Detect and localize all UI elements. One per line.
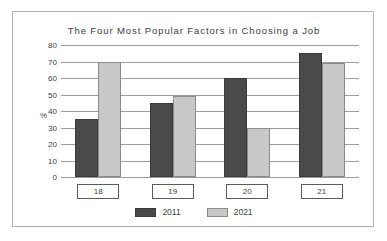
bar-2011-19 xyxy=(150,103,173,177)
y-tick-label-20: 20 xyxy=(48,140,57,149)
legend-item-2021: 2021 xyxy=(207,207,253,217)
gridline-0: 0 xyxy=(61,177,359,178)
bar-2021-19 xyxy=(173,96,196,177)
bar-2011-18 xyxy=(75,119,98,177)
bar-2021-18 xyxy=(98,62,121,178)
bar-group-20 xyxy=(224,45,270,177)
bar-group-19 xyxy=(150,45,196,177)
chart-figure: The Four Most Popular Factors in Choosin… xyxy=(0,0,387,241)
legend-label-2021: 2021 xyxy=(234,207,253,217)
legend-swatch-2021 xyxy=(207,208,228,217)
bar-2011-21 xyxy=(299,53,322,177)
x-category-label-18: 18 xyxy=(77,184,119,199)
y-tick-label-0: 0 xyxy=(53,173,57,182)
plot-area: 80706050403020100 xyxy=(61,45,359,177)
bar-group-18 xyxy=(75,45,121,177)
y-tick-label-80: 80 xyxy=(48,41,57,50)
x-category-label-19: 19 xyxy=(152,184,194,199)
chart-frame: The Four Most Popular Factors in Choosin… xyxy=(12,11,374,227)
x-category-label-20: 20 xyxy=(226,184,268,199)
y-tick-label-70: 70 xyxy=(48,57,57,66)
y-tick-label-60: 60 xyxy=(48,74,57,83)
x-axis-category-row: 18192021 xyxy=(61,184,359,200)
legend-item-2011: 2011 xyxy=(135,207,180,217)
y-tick-label-10: 10 xyxy=(48,156,57,165)
bar-2021-20 xyxy=(247,128,270,178)
chart-legend: 20112021 xyxy=(13,207,375,217)
y-tick-label-50: 50 xyxy=(48,90,57,99)
x-category-label-21: 21 xyxy=(301,184,343,199)
chart-title: The Four Most Popular Factors in Choosin… xyxy=(13,25,375,36)
y-tick-label-30: 30 xyxy=(48,123,57,132)
y-axis-label: % xyxy=(40,111,47,120)
legend-swatch-2011 xyxy=(135,208,156,217)
bar-2011-20 xyxy=(224,78,247,177)
bar-group-21 xyxy=(299,45,345,177)
bar-2021-21 xyxy=(322,63,345,177)
y-tick-label-40: 40 xyxy=(48,107,57,116)
legend-label-2011: 2011 xyxy=(162,207,180,217)
